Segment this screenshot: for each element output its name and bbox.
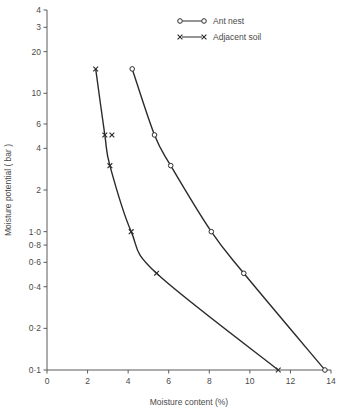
data-point-x-marker: [110, 133, 115, 138]
y-tick-label: 0·2: [29, 323, 42, 333]
x-tick-label: 10: [245, 376, 255, 386]
y-tick-label: 0·1: [29, 365, 42, 375]
y-tick-label: 1·0: [29, 227, 42, 237]
legend-x-marker-right: [202, 35, 207, 40]
chart-figure: 4320106421·00·80·60·40·20·1 02468101214 …: [0, 0, 345, 418]
data-curves: [96, 69, 325, 370]
y-tick-label: 0·8: [29, 240, 42, 250]
legend-entry-ant-nest: Ant nest: [178, 16, 245, 26]
series-curve: [96, 69, 279, 370]
data-point-circle-marker: [168, 163, 173, 168]
chart-legend: Ant nest Adjacent soil: [178, 16, 262, 42]
chart-plot-area: 4320106421·00·80·60·40·20·1 02468101214 …: [0, 0, 345, 418]
data-point-circle-marker: [152, 133, 157, 138]
y-tick-label: 4: [36, 5, 41, 15]
x-axis-title: Moisture content (%): [150, 397, 229, 407]
legend-label-adjacent-soil: Adjacent soil: [213, 32, 261, 42]
y-tick-label: 0·6: [29, 257, 42, 267]
y-tick-label: 10: [32, 88, 42, 98]
series-curve: [132, 69, 325, 370]
legend-circle-marker-left: [178, 19, 183, 24]
data-point-circle-marker: [130, 67, 135, 72]
x-axis-ticks: 02468101214: [45, 370, 336, 386]
legend-entry-adjacent-soil: Adjacent soil: [178, 32, 262, 42]
x-tick-label: 4: [126, 376, 131, 386]
axis-lines: [47, 10, 331, 370]
data-point-x-marker: [154, 271, 159, 276]
y-axis-title: Moisture potential ( bar ): [3, 144, 13, 236]
y-tick-label: 2: [36, 185, 41, 195]
x-tick-label: 6: [166, 376, 171, 386]
x-tick-label: 14: [326, 376, 336, 386]
data-markers: [93, 67, 327, 373]
x-tick-label: 12: [286, 376, 296, 386]
x-tick-label: 8: [207, 376, 212, 386]
y-tick-label: 6: [36, 119, 41, 129]
y-tick-label: 20: [32, 47, 42, 57]
x-tick-label: 2: [85, 376, 90, 386]
y-axis-ticks: 4320106421·00·80·60·40·20·1: [29, 5, 47, 375]
data-point-circle-marker: [241, 271, 246, 276]
legend-x-marker-left: [178, 35, 183, 40]
x-tick-label: 0: [45, 376, 50, 386]
data-point-circle-marker: [323, 368, 328, 373]
y-tick-label: 3: [36, 22, 41, 32]
y-tick-label: 4: [36, 143, 41, 153]
legend-label-ant-nest: Ant nest: [213, 16, 245, 26]
y-tick-label: 0·4: [29, 282, 42, 292]
legend-circle-marker-right: [202, 19, 207, 24]
data-point-circle-marker: [209, 229, 214, 234]
